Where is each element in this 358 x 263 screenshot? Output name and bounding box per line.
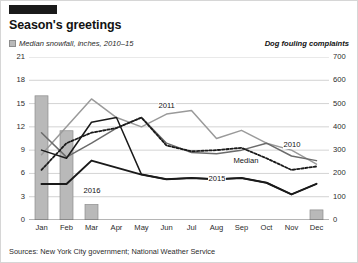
series-annotation-median: Median <box>233 156 260 165</box>
legend-complaints-label: Dog fouling complaints <box>265 39 349 48</box>
y-axis-left-tick: 18 <box>7 76 25 84</box>
x-axis-label-sep: Sep <box>235 223 249 232</box>
y-axis-right-tick: 100 <box>333 193 355 201</box>
snowfall-bar <box>310 210 323 220</box>
lines-group <box>42 99 317 194</box>
x-axis-label-may: May <box>134 223 148 232</box>
y-axis-left-tick: 6 <box>7 169 25 177</box>
y-axis-left-tick: 21 <box>7 53 25 61</box>
snowfall-bar <box>85 204 98 220</box>
x-axis-label-oct: Oct <box>261 223 273 232</box>
bar-swatch-icon <box>9 40 16 47</box>
x-axis-label-aug: Aug <box>210 223 224 232</box>
y-axis-right-tick: 600 <box>333 76 355 84</box>
series-annotation-2015: 2015 <box>208 174 227 183</box>
series-annotation-2010: 2010 <box>283 140 302 149</box>
plot-area <box>29 57 329 220</box>
y-axis-right-tick: 700 <box>333 53 355 61</box>
y-axis-right-tick: 300 <box>333 146 355 154</box>
y-axis-left-tick: 0 <box>7 216 25 224</box>
chart-container: Season's greetings Median snowfall, inch… <box>0 0 358 263</box>
x-axis-label-feb: Feb <box>60 223 73 232</box>
source-note: Sources: New York City government; Natio… <box>9 247 215 256</box>
snowfall-bar <box>35 96 48 220</box>
y-axis-left-tick: 3 <box>7 193 25 201</box>
y-axis-right-tick: 200 <box>333 169 355 177</box>
page-title: Season's greetings <box>9 18 121 32</box>
y-axis-right-tick: 500 <box>333 100 355 108</box>
x-axis-label-mar: Mar <box>85 223 98 232</box>
x-axis-label-jul: Jul <box>187 223 197 232</box>
legend-snowfall-label: Median snowfall, inches, 2010–15 <box>19 39 133 48</box>
x-axis-label-jun: Jun <box>160 223 172 232</box>
y-axis-right-tick: 400 <box>333 123 355 131</box>
series-line-2011 <box>42 118 317 161</box>
series-line-2015 <box>42 118 317 195</box>
y-axis-left-tick: 15 <box>7 100 25 108</box>
y-axis-right-tick: 0 <box>333 216 355 224</box>
series-annotation-2016: 2016 <box>83 186 102 195</box>
x-axis-label-jan: Jan <box>35 223 47 232</box>
x-axis-label-apr: Apr <box>111 223 123 232</box>
series-line-2010 <box>42 99 317 164</box>
y-axis-left-tick: 12 <box>7 123 25 131</box>
x-axis-label-dec: Dec <box>310 223 324 232</box>
y-axis-left-tick: 9 <box>7 146 25 154</box>
x-axis-label-nov: Nov <box>285 223 299 232</box>
legend-snowfall: Median snowfall, inches, 2010–15 <box>9 39 133 48</box>
chart-svg <box>29 57 329 220</box>
brand-tab <box>9 5 57 14</box>
series-annotation-2011: 2011 <box>158 101 176 110</box>
series-line-median <box>42 118 317 170</box>
